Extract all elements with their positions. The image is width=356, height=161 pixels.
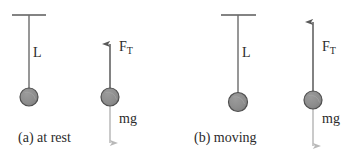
panel-b-free-body (304, 22, 322, 146)
tension-label-a: FT (119, 40, 133, 56)
caption-panel-a: (a) at rest (18, 130, 71, 146)
panel-a-free-body (101, 44, 119, 143)
tension-label-a-subscript: T (127, 45, 133, 56)
pendulum-bob-a (20, 88, 38, 106)
panel-a-pendulum (12, 15, 46, 106)
length-label-b: L (242, 46, 251, 60)
tension-label-b: FT (322, 40, 336, 56)
weight-label-a: mg (119, 112, 137, 126)
tension-label-b-symbol: F (322, 39, 330, 54)
tension-label-a-symbol: F (119, 39, 127, 54)
pendulum-bob-b (229, 93, 248, 112)
tension-label-b-subscript: T (330, 45, 336, 56)
caption-panel-b: (b) moving (194, 130, 257, 146)
panel-b-pendulum (221, 15, 256, 112)
free-body-bob-b (304, 91, 322, 109)
pendulum-figure: L FT mg (a) at rest L FT mg (b) moving (0, 0, 356, 161)
weight-label-b: mg (322, 112, 340, 126)
free-body-bob-a (101, 88, 119, 106)
length-label-a: L (33, 46, 42, 60)
